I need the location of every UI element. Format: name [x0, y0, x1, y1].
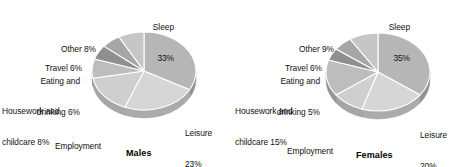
- label-sleep-males: Sleep 33%: [108, 2, 174, 84]
- label-leisure-females-line2: 20%: [420, 161, 468, 167]
- pie-chart-males: Sleep 33% Leisure 23% Employment and stu…: [0, 0, 234, 167]
- label-leisure-males-line1: Leisure: [185, 128, 235, 138]
- chart-title-males: Males: [126, 148, 152, 158]
- label-sleep-females: Sleep 35%: [344, 2, 410, 84]
- label-other-females-line1: Other 9%: [274, 44, 334, 54]
- label-eating-males-line2: drinking 6%: [8, 107, 80, 117]
- label-leisure-females: Leisure 20%: [420, 110, 468, 167]
- label-other-males: Other 8%: [36, 24, 96, 75]
- label-sleep-males-line1: Sleep: [108, 22, 174, 32]
- label-housework-females-line2: childcare 15%: [235, 137, 327, 147]
- label-sleep-males-line2: 33%: [108, 53, 174, 63]
- label-leisure-males-line2: 23%: [185, 159, 235, 167]
- label-other-males-line1: Other 8%: [36, 44, 96, 54]
- chart-title-females: Females: [356, 150, 393, 160]
- label-sleep-females-line2: 35%: [344, 53, 410, 63]
- label-other-females: Other 9%: [274, 24, 334, 75]
- label-sleep-females-line1: Sleep: [344, 22, 410, 32]
- label-housework-males-line2: childcare 8%: [2, 137, 84, 147]
- label-eating-females-line2: drinking 5%: [248, 107, 320, 117]
- pie-chart-females: Sleep 35% Leisure 20% Employment and stu…: [234, 0, 468, 167]
- label-leisure-males: Leisure 23%: [185, 108, 235, 167]
- label-leisure-females-line1: Leisure: [420, 130, 468, 140]
